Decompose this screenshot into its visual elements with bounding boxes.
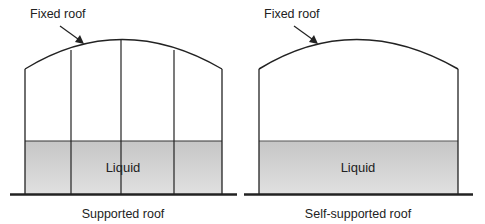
arrow-head-icon [309, 35, 318, 44]
storage-tank-diagram: Fixed roof Liquid Supported roof Fixed r… [0, 0, 485, 224]
tank-caption: Supported roof [82, 207, 165, 221]
fixed-roof-dome [25, 40, 222, 70]
arrow-head-icon [75, 35, 84, 44]
fixed-roof-dome [259, 40, 458, 70]
liquid-label: Liquid [341, 160, 376, 175]
roof-pointer-arrow [60, 26, 78, 39]
self-supported-roof-tank: Fixed roof Liquid Self-supported roof [244, 7, 473, 221]
roof-label: Fixed roof [30, 7, 86, 21]
liquid-label: Liquid [106, 160, 141, 175]
roof-label: Fixed roof [264, 7, 320, 21]
tank-caption: Self-supported roof [305, 207, 412, 221]
roof-pointer-arrow [294, 26, 312, 39]
supported-roof-tank: Fixed roof Liquid Supported roof [10, 7, 237, 221]
